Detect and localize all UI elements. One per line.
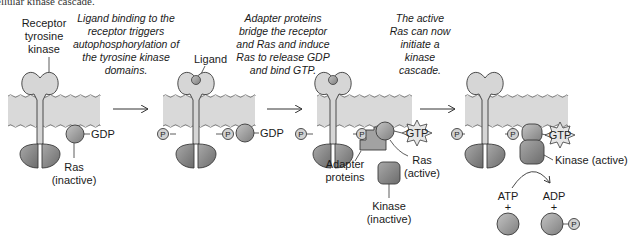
top-cutoff-text: ellular kinase cascade. (0, 0, 95, 7)
kinase-inactive-label-line2: (inactive) (367, 213, 412, 225)
ras-signaling-diagram: ellular kinase cascade. Receptor tyrosin… (0, 0, 636, 238)
ligand (329, 76, 338, 85)
svg-text:P: P (359, 130, 364, 139)
ras-active-label-line1: Ras (412, 154, 432, 166)
svg-text:P: P (298, 130, 303, 139)
kinase-active (520, 140, 544, 164)
membrane-panel-2 (163, 95, 255, 128)
reaction-arrow (512, 172, 550, 188)
svg-text:Ras can now: Ras can now (390, 25, 452, 37)
svg-text:Ras to release GDP: Ras to release GDP (236, 51, 329, 63)
ras-label-line1: Ras (64, 161, 84, 173)
svg-text:cascade.: cascade. (399, 64, 441, 76)
membrane-panel-1 (8, 95, 100, 128)
ras-active (376, 122, 394, 140)
gdp-label: GDP (260, 127, 284, 139)
svg-text:P: P (225, 130, 230, 139)
svg-text:P: P (510, 130, 515, 139)
receptor-label-line2: tyrosine (25, 30, 64, 42)
receptor-label-line1: Receptor (22, 17, 67, 29)
ligand-label: Ligand (194, 53, 227, 65)
ras-label-line2: (inactive) (52, 174, 97, 186)
substrate-protein (497, 213, 519, 235)
plus-sign: + (505, 201, 511, 213)
svg-text:Ligand binding to the: Ligand binding to the (77, 12, 175, 24)
ras-inactive (66, 125, 84, 143)
gtp-label: GTP (406, 127, 429, 139)
ras-active (522, 124, 542, 142)
adapter-label-line1: Adapter (326, 158, 365, 170)
receptor-label-line3: kinase (28, 43, 60, 55)
phosphorylated-protein (541, 213, 563, 235)
svg-text:The active: The active (396, 12, 445, 24)
ras-inactive (236, 124, 254, 142)
caption-step-2: Ligand binding to the receptor triggers … (73, 12, 180, 76)
plus-sign: + (551, 201, 557, 213)
gdp-label: GDP (91, 128, 115, 140)
svg-text:the tyrosine kinase: the tyrosine kinase (82, 51, 170, 63)
svg-text:receptor triggers: receptor triggers (88, 25, 165, 37)
adapter-label-line2: proteins (325, 171, 365, 183)
kinase-active-label: Kinase (active) (555, 154, 628, 166)
ras-active-label-line2: (active) (404, 167, 440, 179)
gtp-label: GTP (549, 129, 572, 141)
svg-text:kinase: kinase (405, 51, 436, 63)
membrane-panel-4 (465, 95, 568, 128)
svg-text:and Ras and induce: and Ras and induce (236, 38, 330, 50)
ligand (192, 76, 201, 85)
svg-text:autophosphorylation of: autophosphorylation of (73, 38, 180, 50)
kinase-inactive-label-line1: Kinase (372, 200, 406, 212)
caption-step-4: The active Ras can now initiate a kinase… (390, 12, 452, 76)
svg-text:P: P (454, 130, 459, 139)
svg-text:P: P (160, 130, 165, 139)
kinase-inactive (378, 162, 400, 184)
svg-text:P: P (571, 220, 576, 229)
svg-text:and bind GTP.: and bind GTP. (250, 64, 316, 76)
caption-step-3: Adapter proteins bridge the receptor and… (236, 12, 330, 76)
svg-text:Adapter proteins: Adapter proteins (243, 12, 322, 24)
svg-text:domains.: domains. (105, 64, 148, 76)
svg-text:initiate a: initiate a (400, 38, 439, 50)
svg-text:bridge the receptor: bridge the receptor (239, 25, 328, 37)
